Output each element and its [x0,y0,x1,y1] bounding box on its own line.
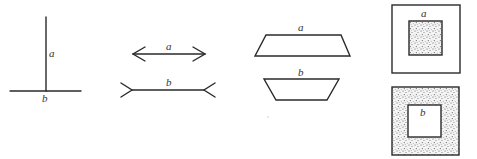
label-a: a [49,47,55,59]
label-b: b [166,76,172,88]
panel-trapezoids: a b [255,21,350,118]
panel-vertical-horizontal: a b [10,17,81,104]
label-b: b [420,106,426,118]
trapezoid-a [255,35,350,56]
label-a: a [298,21,304,33]
label-a: a [166,40,172,52]
stray-dot [267,116,268,117]
panel-squares: a b [392,5,460,155]
illusion-diagram: a b a b a b a b [0,0,477,159]
panel-muller-lyer: a b [121,40,215,97]
label-b: b [298,66,304,78]
label-a: a [421,7,427,19]
inner-stippled-square-a [409,21,442,55]
label-b: b [42,92,48,104]
trapezoid-b [264,79,339,100]
